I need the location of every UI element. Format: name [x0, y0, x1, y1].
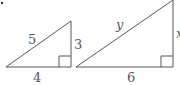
label-left-hypotenuse: 5: [28, 33, 36, 46]
label-right-vertical-leg: x: [176, 27, 180, 40]
label-right-horizontal-leg: 6: [127, 71, 135, 84]
label-left-horizontal-leg: 4: [33, 71, 41, 84]
label-right-hypotenuse: y: [116, 18, 123, 31]
right-angle-marker-right: [161, 56, 173, 67]
bullet-dot: [1, 2, 3, 4]
triangle-right: [76, 0, 173, 67]
triangles-svg: [0, 0, 180, 85]
right-angle-marker-left: [59, 56, 71, 67]
label-left-vertical-leg: 3: [74, 38, 82, 51]
triangle-left: [6, 21, 71, 67]
